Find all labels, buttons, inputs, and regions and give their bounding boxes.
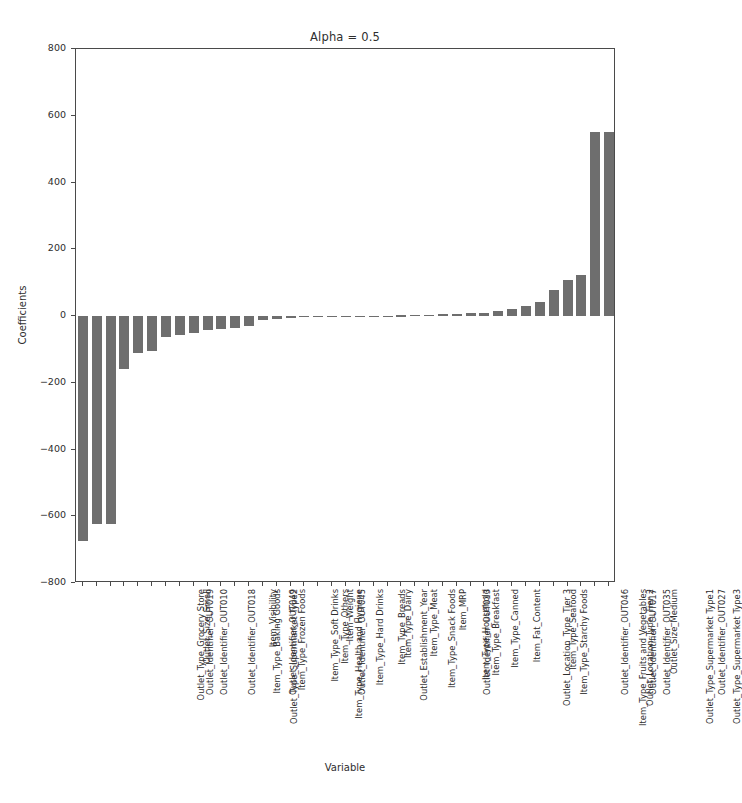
x-axis-tick-mark [345,582,346,586]
y-axis-tick-mark [71,582,75,583]
bar [216,316,226,329]
x-axis-tick-mark [567,582,568,586]
x-axis-tick-mark [137,582,138,586]
x-axis-tick-mark [82,582,83,586]
y-axis-tick-label: −400 [0,443,66,454]
x-axis-tick-label: Item_Type_Seafood [567,589,577,670]
x-axis-tick-mark [553,582,554,586]
bar [410,315,420,316]
x-axis-tick-label: Item_Type_Breakfast [490,589,500,676]
bar [106,316,116,524]
bar [576,275,586,316]
x-axis-tick-label: Item_Type_Canned [510,589,520,668]
x-axis-tick-mark [96,582,97,586]
x-axis-tick-label: Outlet_Establishment_Year [418,589,428,701]
bar [203,316,213,330]
x-axis-tick-label: Outlet_Size_Medium [669,589,679,674]
x-axis-tick-label: Item_Type_Meat [430,589,440,656]
x-axis-tick-mark [511,582,512,586]
x-axis-tick-label: Outlet_Identifier_OUT046 [620,589,630,695]
y-axis-tick-label: −200 [0,376,66,387]
x-axis-tick-mark [580,582,581,586]
x-axis-tick-mark [317,582,318,586]
x-axis-tick-label: Item_Type_Frozen Foods [297,589,307,690]
bar [78,316,88,541]
plot-area [75,48,615,582]
x-axis-tick-label: Item_Visibility [268,589,278,647]
x-axis-tick-mark [594,582,595,586]
x-axis-tick-label: Item_Type_Snack Foods [447,589,457,688]
chart-title: Alpha = 0.5 [75,30,615,44]
bar [92,316,102,524]
bar [244,316,254,326]
x-axis-tick-label: Item_Type_Dairy [403,589,413,658]
bar [493,311,503,316]
y-axis-tick-label: −600 [0,509,66,520]
bar [507,309,517,316]
x-axis-tick-mark [151,582,152,586]
y-axis-tick-mark [71,248,75,249]
x-axis-tick-mark [428,582,429,586]
x-axis-tick-mark [442,582,443,586]
bar [272,316,282,319]
x-axis-tick-label: Item_Weight [345,589,355,641]
bar [466,313,476,316]
bar [119,316,129,369]
x-axis-tick-mark [456,582,457,586]
x-axis-tick-label: Outlet_Type_Supermarket Type1 [705,589,715,724]
x-axis-tick-mark [331,582,332,586]
bar [590,132,600,316]
bar [535,302,545,316]
y-axis-tick-mark [71,382,75,383]
bar [479,313,489,316]
x-axis-tick-mark [179,582,180,586]
y-axis-tick-mark [71,315,75,316]
x-axis-tick-label: Item_Type_Starchy Foods [578,589,588,695]
x-axis-tick-mark [262,582,263,586]
bar [369,316,379,317]
x-axis-tick-mark [497,582,498,586]
x-axis-tick-mark [470,582,471,586]
y-axis-tick-label: 400 [0,176,66,187]
x-axis-tick-label: Item_Type_Hard Drinks [375,589,385,685]
x-axis-tick-label: Outlet_Identifier_OUT018 [246,589,256,695]
bar [549,290,559,316]
bar [133,316,143,353]
bar [383,316,393,317]
y-axis-tick-mark [71,515,75,516]
bar [521,306,531,316]
bar [396,315,406,316]
x-axis-tick-label: Item_MRP [459,589,469,630]
bar [286,316,296,318]
x-axis-tick-mark [290,582,291,586]
x-axis-tick-label: Item_Type_Household [481,589,491,680]
y-axis-tick-label: −800 [0,576,66,587]
bar [424,315,434,316]
y-axis-tick-mark [71,449,75,450]
bar [604,132,614,316]
bar [452,314,462,316]
bar [147,316,157,351]
x-axis-tick-mark [483,582,484,586]
bar [355,316,365,317]
x-axis-tick-mark [165,582,166,586]
x-axis-tick-mark [110,582,111,586]
y-axis-tick-label: 0 [0,309,66,320]
x-axis-tick-label: Outlet_Identifier_OUT045 [357,589,367,695]
bar [258,316,268,320]
x-axis-tick-mark [207,582,208,586]
x-axis-tick-mark [359,582,360,586]
y-axis-tick-label: 200 [0,242,66,253]
bar [327,316,337,317]
bar [313,316,323,317]
x-axis-tick-label: Item_Fat_Content [532,589,542,662]
x-axis-tick-mark [373,582,374,586]
x-axis-tick-mark [414,582,415,586]
x-axis-tick-mark [539,582,540,586]
x-axis-tick-label: Outlet_Identifier_OUT010 [219,589,229,695]
x-axis-tick-mark [193,582,194,586]
bar [438,314,448,316]
x-axis-tick-label: Item_Type_Soft Drinks [330,589,340,682]
x-axis-tick-mark [276,582,277,586]
bar [189,316,199,333]
